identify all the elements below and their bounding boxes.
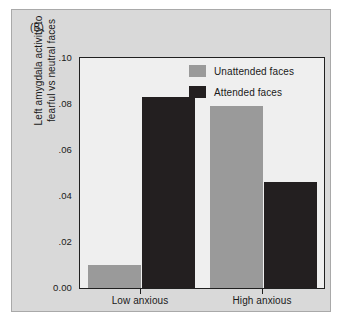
y-tick-label: 0.00 — [53, 282, 72, 293]
x-tick-mark — [262, 288, 263, 294]
legend-swatch-attended-icon — [189, 86, 206, 98]
chart-legend: Unattended faces Attended faces — [189, 65, 294, 98]
x-tick-label-low-anxious: Low anxious — [112, 295, 169, 306]
legend-label-attended: Attended faces — [214, 87, 282, 98]
plot-area: Unattended faces Attended faces — [79, 57, 325, 289]
x-tick-label-high-anxious: High anxious — [232, 295, 291, 306]
figure-container: (B) Left amygdala activity to fearful vs… — [0, 0, 343, 326]
y-tick-label: .02 — [58, 236, 72, 247]
bar-attended-high-anxious — [264, 182, 317, 288]
legend-swatch-unattended-icon — [189, 65, 206, 77]
chart-panel: (B) Left amygdala activity to fearful vs… — [11, 9, 331, 312]
x-tick-mark — [140, 288, 141, 294]
y-tick-label: .04 — [58, 190, 72, 201]
legend-item-attended: Attended faces — [189, 86, 294, 98]
y-tick-label: .08 — [58, 98, 72, 109]
y-tick-label: .06 — [58, 144, 72, 155]
bar-unattended-high-anxious — [210, 106, 263, 288]
y-axis-ticks: .10.08.06.04.020.00 — [26, 57, 72, 326]
bar-attended-low-anxious — [142, 97, 195, 288]
legend-label-unattended: Unattended faces — [214, 66, 294, 77]
y-tick-label: .10 — [58, 52, 72, 63]
legend-item-unattended: Unattended faces — [189, 65, 294, 77]
bar-unattended-low-anxious — [88, 265, 141, 288]
